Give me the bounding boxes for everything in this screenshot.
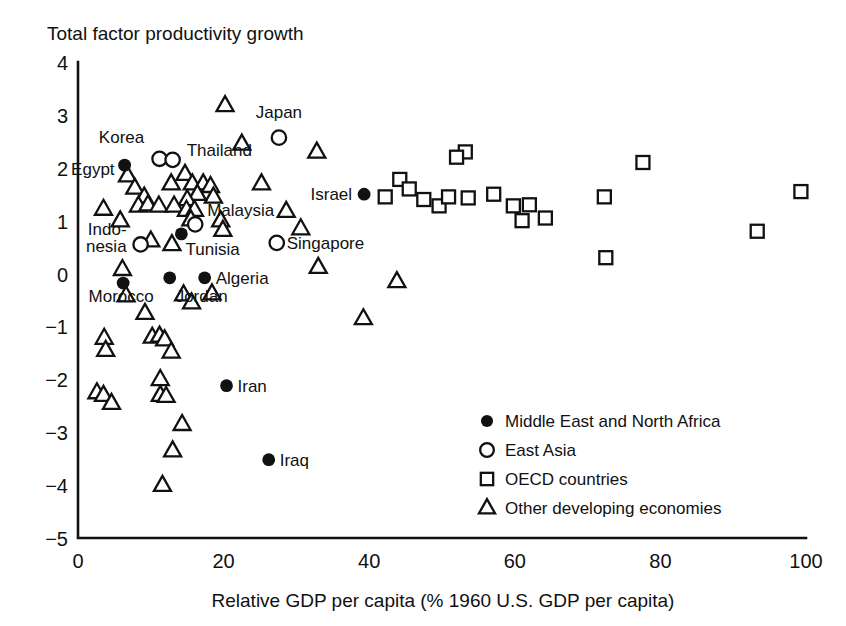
y-tick-labels: 43210−1−2−3−4−5 xyxy=(45,52,68,550)
point-label: Malaysia xyxy=(207,201,275,220)
marker-circle-filled xyxy=(163,271,176,284)
x-tick-label: 20 xyxy=(212,550,234,572)
marker-triangle xyxy=(308,143,325,158)
marker-triangle xyxy=(355,309,372,324)
y-tick-label: 0 xyxy=(57,264,68,286)
legend-label: Other developing economies xyxy=(505,499,721,518)
marker-triangle xyxy=(114,260,131,275)
point-label: Singapore xyxy=(287,234,365,253)
point-label: Algeria xyxy=(216,269,269,288)
marker-circle-filled xyxy=(118,159,131,172)
marker-square xyxy=(599,251,612,264)
point-label: nesia xyxy=(86,237,127,256)
point-label: Morocco xyxy=(89,287,154,306)
marker-square xyxy=(523,198,536,211)
marker-triangle xyxy=(479,499,495,513)
marker-triangle xyxy=(278,202,295,217)
y-tick-label: 2 xyxy=(57,158,68,180)
chart-figure: Total factor productivity growth 43210−1… xyxy=(0,0,846,626)
marker-circle-filled xyxy=(481,415,493,427)
x-tick-label: 60 xyxy=(504,550,526,572)
scatter-plot: Total factor productivity growth 43210−1… xyxy=(0,0,846,626)
legend-label: East Asia xyxy=(505,441,576,460)
series-oecd-countries xyxy=(379,145,808,264)
y-tick-label: 4 xyxy=(57,52,68,74)
marker-circle-filled xyxy=(198,271,211,284)
y-tick-label: 1 xyxy=(57,211,68,233)
point-label: Israel xyxy=(311,185,353,204)
y-tick-label: −4 xyxy=(45,475,68,497)
marker-square xyxy=(794,185,807,198)
point-label: Iraq xyxy=(280,451,309,470)
marker-square xyxy=(516,214,529,227)
marker-circle-filled xyxy=(262,453,275,466)
marker-triangle xyxy=(310,258,327,273)
marker-square xyxy=(379,190,392,203)
point-label: Japan xyxy=(256,103,302,122)
marker-triangle xyxy=(388,272,405,287)
chart-legend: Middle East and North AfricaEast AsiaOEC… xyxy=(479,412,721,518)
x-tick-label: 0 xyxy=(72,550,83,572)
point-label: Egypt xyxy=(71,160,115,179)
legend-label: Middle East and North Africa xyxy=(505,412,721,431)
marker-square xyxy=(450,151,463,164)
y-tick-label: −5 xyxy=(45,528,68,550)
y-tick-label: −1 xyxy=(45,316,68,338)
marker-circle-open xyxy=(133,237,147,251)
point-label: Thailand xyxy=(187,141,252,160)
marker-square xyxy=(487,188,500,201)
marker-square xyxy=(462,191,475,204)
point-label: Iran xyxy=(238,377,267,396)
marker-triangle xyxy=(292,219,309,234)
marker-circle-open xyxy=(480,443,494,457)
y-tick-label: 3 xyxy=(57,105,68,127)
marker-square xyxy=(539,212,552,225)
marker-square xyxy=(417,193,430,206)
chart-axis-title-y: Total factor productivity growth xyxy=(47,23,304,44)
marker-square xyxy=(481,473,493,485)
marker-square xyxy=(636,156,649,169)
marker-triangle xyxy=(217,96,234,111)
marker-square xyxy=(751,225,764,238)
marker-circle-open xyxy=(272,130,286,144)
y-tick-label: −2 xyxy=(45,369,68,391)
marker-circle-filled xyxy=(175,227,188,240)
legend-label: OECD countries xyxy=(505,470,628,489)
marker-circle-open xyxy=(165,153,179,167)
marker-triangle xyxy=(154,476,171,491)
x-tick-label: 80 xyxy=(649,550,671,572)
marker-triangle xyxy=(152,370,169,385)
x-tick-labels: 020406080100 xyxy=(72,550,822,572)
marker-triangle xyxy=(95,200,112,215)
x-tick-label: 40 xyxy=(358,550,380,572)
chart-axis-title-x: Relative GDP per capita (% 1960 U.S. GDP… xyxy=(212,590,675,611)
marker-square xyxy=(442,190,455,203)
marker-square xyxy=(403,182,416,195)
marker-square xyxy=(598,190,611,203)
marker-circle-filled xyxy=(358,188,371,201)
marker-circle-open xyxy=(188,217,202,231)
marker-circle-filled xyxy=(220,379,233,392)
point-label: Tunisia xyxy=(186,240,241,259)
y-tick-label: −3 xyxy=(45,422,68,444)
marker-triangle xyxy=(253,174,270,189)
marker-circle-open xyxy=(270,236,284,250)
marker-triangle xyxy=(164,441,181,456)
marker-triangle xyxy=(136,304,153,319)
point-label: Korea xyxy=(99,128,145,147)
marker-triangle xyxy=(174,415,191,430)
x-tick-label: 100 xyxy=(789,550,822,572)
marker-square xyxy=(507,199,520,212)
point-label: Jordan xyxy=(176,287,228,306)
